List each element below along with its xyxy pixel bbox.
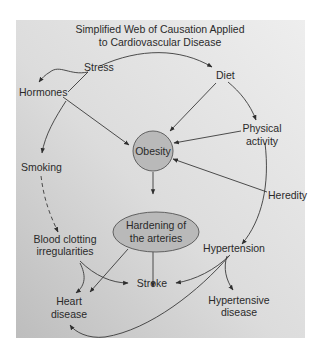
node-obesity: Obesity (133, 131, 173, 171)
node-heart-disease-line1: Heart (56, 295, 82, 307)
node-blood-clotting-line1: Blood clotting (33, 233, 96, 245)
node-blood-clotting-line2: irregularities (36, 245, 93, 257)
causation-web-diagram: Simplified Web of Causation Applied to C… (0, 0, 320, 355)
node-stroke: Stroke (137, 277, 168, 289)
diagram-panel (16, 20, 305, 338)
title-line-1: Simplified Web of Causation Applied (75, 23, 244, 35)
node-stress: Stress (84, 61, 114, 73)
node-hardening-line2: the arteries (130, 232, 183, 244)
node-physical-activity-line1: Physical (242, 122, 281, 134)
node-hypertension: Hypertension (203, 242, 265, 254)
title-line-2: to Cardiovascular Disease (99, 36, 222, 48)
node-obesity-label: Obesity (135, 145, 171, 157)
diagram-canvas: Simplified Web of Causation Applied to C… (0, 0, 320, 355)
node-diet: Diet (216, 69, 235, 81)
node-hardening-of-arteries: Hardening of the arteries (113, 212, 199, 252)
node-smoking: Smoking (21, 161, 62, 173)
node-hypertensive-disease-line1: Hypertensive (208, 294, 269, 306)
node-physical-activity-line2: activity (246, 135, 279, 147)
node-hypertensive-disease-line2: disease (221, 306, 257, 318)
node-hardening-line1: Hardening of (126, 219, 186, 231)
node-heart-disease-line2: disease (51, 308, 87, 320)
node-hormones: Hormones (19, 86, 67, 98)
node-heredity: Heredity (268, 189, 308, 201)
